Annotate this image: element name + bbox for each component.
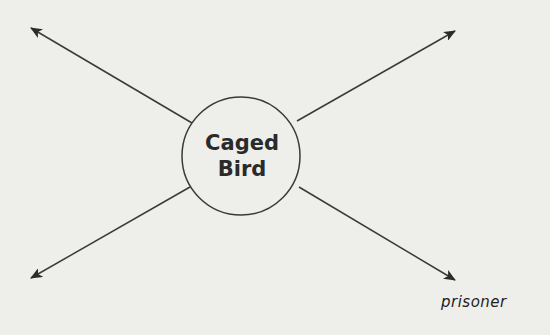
arrow-lower-right [299,187,455,280]
arrow-upper-left [31,28,192,123]
arrow-upper-right [297,31,455,121]
center-label: Caged Bird [183,93,301,219]
arrow-lower-left [31,187,190,278]
center-label-line2: Bird [218,156,267,182]
center-label-line1: Caged [205,130,279,156]
handwritten-answer-lower-right: prisoner [441,293,507,311]
